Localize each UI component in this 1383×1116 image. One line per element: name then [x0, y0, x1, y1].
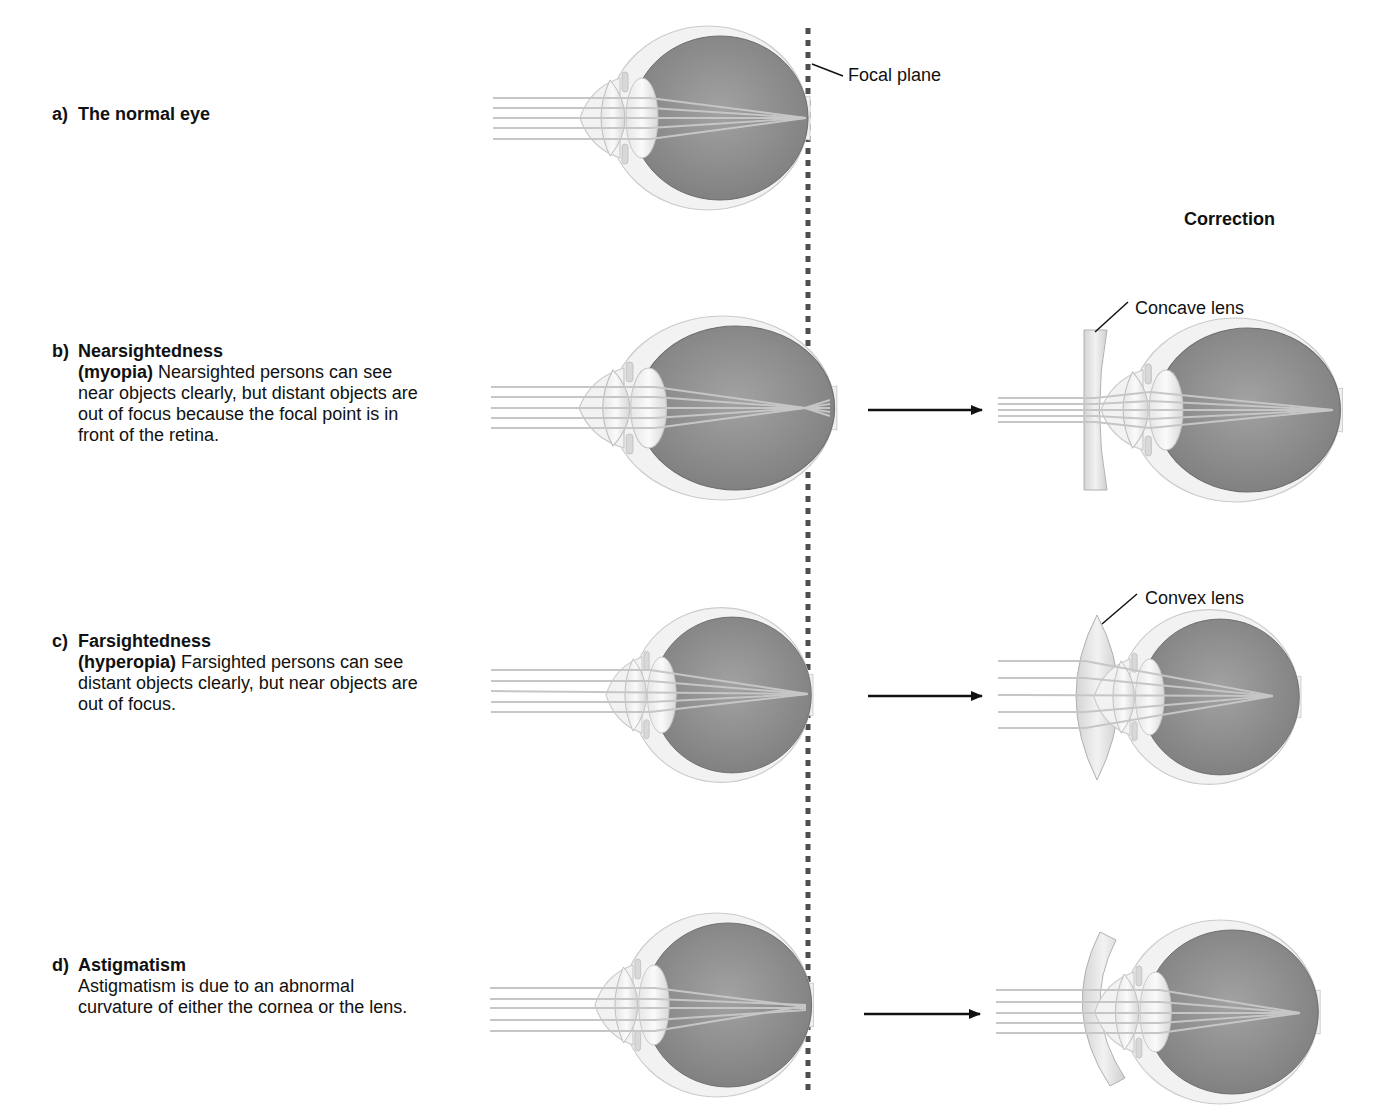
eye-astigmatism-diagram	[595, 913, 814, 1097]
focal-plane-leader	[812, 64, 843, 76]
convex-lens-leader	[1102, 594, 1137, 624]
concave-lens-leader	[1095, 302, 1128, 332]
eye-diagram-canvas	[0, 0, 1383, 1116]
